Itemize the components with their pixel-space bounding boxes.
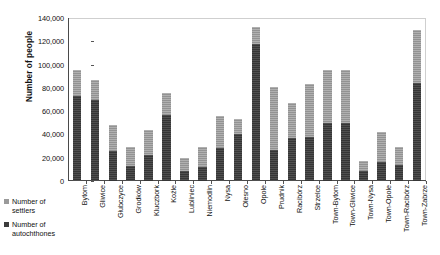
stacked-bar[interactable] bbox=[162, 93, 171, 181]
bar-slot bbox=[323, 18, 332, 181]
stacked-bar[interactable] bbox=[126, 147, 135, 181]
stacked-bar[interactable] bbox=[198, 147, 207, 181]
bar-segment-settlers bbox=[216, 116, 225, 149]
bar-segment-settlers bbox=[109, 125, 118, 151]
bar-slot bbox=[413, 18, 422, 181]
stacked-bar[interactable] bbox=[270, 87, 279, 181]
stacked-bar[interactable] bbox=[234, 119, 243, 181]
bar-slot bbox=[305, 18, 314, 181]
x-axis-tick-label: Town-Opole bbox=[384, 185, 393, 223]
x-axis-tick bbox=[319, 181, 320, 184]
bar-segment-autochthones bbox=[180, 171, 189, 181]
bar-segment-autochthones bbox=[359, 171, 368, 181]
stacked-bar[interactable] bbox=[413, 30, 422, 181]
x-axis-tick-label: Town-Bytom bbox=[331, 185, 340, 224]
y-axis-tick-label: 60,000 bbox=[42, 107, 64, 116]
y-axis-tick-label: 140,000 bbox=[38, 14, 64, 23]
bar-segment-autochthones bbox=[395, 165, 404, 181]
bar-segment-settlers bbox=[180, 158, 189, 171]
x-axis-tick-label: Town-Racibórz bbox=[402, 185, 411, 232]
x-axis-tick bbox=[408, 181, 409, 184]
bar-segment-settlers bbox=[73, 70, 82, 96]
stacked-bar[interactable] bbox=[180, 158, 189, 181]
bar-segment-autochthones bbox=[377, 162, 386, 181]
bar-slot bbox=[91, 18, 100, 181]
stacked-bar-chart: Number of people 140,000120,000100,00080… bbox=[0, 0, 440, 255]
x-axis-tick-label: Bytom bbox=[80, 185, 89, 205]
x-axis-tick bbox=[122, 181, 123, 184]
stacked-bar[interactable] bbox=[323, 70, 332, 181]
bar-segment-autochthones bbox=[198, 167, 207, 181]
stacked-bar[interactable] bbox=[109, 125, 118, 181]
x-axis-labels: BytomGliwiceGłubczyceGrodkówKluczborkKoź… bbox=[68, 185, 426, 255]
bar-segment-autochthones bbox=[162, 115, 171, 181]
x-axis-tick bbox=[354, 181, 355, 184]
stacked-bar[interactable] bbox=[377, 132, 386, 181]
x-axis-tick bbox=[104, 181, 105, 184]
bar-slot bbox=[126, 18, 135, 181]
x-axis-tick bbox=[140, 181, 141, 184]
bar-slot bbox=[252, 18, 261, 181]
stacked-bar[interactable] bbox=[395, 147, 404, 181]
x-axis-tick bbox=[175, 181, 176, 184]
bar-segment-autochthones bbox=[234, 134, 243, 181]
bar-segment-autochthones bbox=[126, 166, 135, 181]
legend-item[interactable]: Number of autochthones bbox=[4, 220, 68, 238]
x-axis-tick-label: Grodków bbox=[134, 185, 143, 213]
bar-slot bbox=[180, 18, 189, 181]
bar-slot bbox=[198, 18, 207, 181]
bar-segment-settlers bbox=[377, 132, 386, 162]
bar-segment-autochthones bbox=[252, 44, 261, 181]
legend-swatch-icon bbox=[4, 222, 9, 227]
x-axis-tick-label: Prudnik bbox=[277, 185, 286, 209]
stacked-bar[interactable] bbox=[91, 80, 100, 181]
x-axis-tick bbox=[301, 181, 302, 184]
bar-segment-settlers bbox=[270, 87, 279, 150]
x-axis-tick bbox=[337, 181, 338, 184]
bar-slot bbox=[73, 18, 82, 181]
stacked-bar[interactable] bbox=[73, 70, 82, 181]
x-axis-tick-label: Town-Nysa bbox=[366, 185, 375, 220]
bar-segment-settlers bbox=[234, 119, 243, 134]
bar-segment-autochthones bbox=[288, 138, 297, 181]
bar-segment-settlers bbox=[91, 80, 100, 100]
x-axis-tick bbox=[265, 181, 266, 184]
bar-slot bbox=[162, 18, 171, 181]
bar-segment-settlers bbox=[305, 84, 314, 136]
x-axis-tick bbox=[390, 181, 391, 184]
bar-slot bbox=[377, 18, 386, 181]
stacked-bar[interactable] bbox=[341, 70, 350, 181]
bar-segment-autochthones bbox=[109, 151, 118, 181]
x-axis-tick-label: Opole bbox=[259, 185, 268, 204]
bar-segment-autochthones bbox=[305, 137, 314, 181]
x-axis-tick bbox=[372, 181, 373, 184]
bar-slot bbox=[109, 18, 118, 181]
y-axis-tick-label: 40,000 bbox=[42, 130, 64, 139]
stacked-bar[interactable] bbox=[359, 161, 368, 181]
x-axis-tick-label: Głubczyce bbox=[116, 185, 125, 218]
y-axis-tick-label: 20,000 bbox=[42, 153, 64, 162]
bar-segment-settlers bbox=[359, 161, 368, 170]
bar-segment-settlers bbox=[341, 70, 350, 122]
bar-segment-settlers bbox=[288, 103, 297, 138]
bar-segment-autochthones bbox=[73, 96, 82, 181]
bar-segment-autochthones bbox=[323, 123, 332, 181]
y-axis-tick-label: 100,000 bbox=[38, 60, 64, 69]
stacked-bar[interactable] bbox=[144, 130, 153, 181]
bar-segment-settlers bbox=[323, 70, 332, 122]
bar-segment-settlers bbox=[162, 93, 171, 115]
stacked-bar[interactable] bbox=[288, 103, 297, 181]
stacked-bar[interactable] bbox=[305, 84, 314, 181]
legend-item[interactable]: Number of settlers bbox=[4, 197, 68, 215]
bar-slot bbox=[341, 18, 350, 181]
x-axis-tick-label: Niemodlin bbox=[205, 185, 214, 217]
stacked-bar[interactable] bbox=[216, 116, 225, 181]
x-axis-tick-label: Gliwice bbox=[98, 185, 107, 208]
bar-segment-settlers bbox=[413, 30, 422, 84]
x-axis-tick-label: Lubliniec bbox=[187, 185, 196, 213]
legend-label: Number of settlers bbox=[12, 197, 68, 215]
x-axis-tick-label: Town-Gliwice bbox=[348, 185, 357, 227]
stacked-bar[interactable] bbox=[252, 27, 261, 181]
bar-segment-autochthones bbox=[270, 150, 279, 181]
bar-slot bbox=[216, 18, 225, 181]
